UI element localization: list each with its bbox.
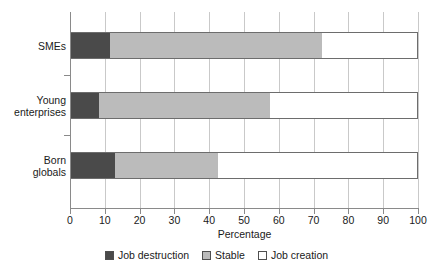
bar-segment	[115, 152, 218, 179]
legend-item[interactable]: Job creation	[258, 249, 328, 261]
stacked-bar-chart: SMEsYoungenterprisesBornglobals 01020304…	[0, 0, 433, 269]
x-axis-label-60: 60	[264, 214, 294, 227]
x-axis-label-100: 100	[403, 214, 433, 227]
y-axis-label-line: globals	[33, 166, 66, 178]
legend-label: Job creation	[271, 249, 328, 261]
legend-label: Job destruction	[118, 249, 189, 261]
y-axis-line	[70, 12, 71, 208]
bar-row	[70, 92, 418, 119]
y-axis-label-born-globals: Bornglobals	[33, 154, 66, 178]
bar-row	[70, 32, 418, 59]
bar-segment	[70, 152, 115, 179]
legend-swatch-icon	[258, 251, 267, 260]
gridline-100	[418, 12, 419, 208]
x-axis-label-10: 10	[90, 214, 120, 227]
legend-item[interactable]: Job destruction	[105, 249, 189, 261]
plot-area	[70, 12, 418, 208]
x-axis-title: Percentage	[70, 228, 419, 240]
y-axis-label-line: Young	[14, 94, 66, 106]
x-axis-label-0: 0	[55, 214, 85, 227]
legend-label: Stable	[215, 249, 245, 261]
bar-segment	[110, 32, 322, 59]
y-axis-label-smes: SMEs	[38, 40, 66, 52]
bar-segment	[70, 92, 99, 119]
y-axis-tick-1	[64, 135, 71, 136]
x-axis-label-40: 40	[194, 214, 224, 227]
x-axis-label-90: 90	[368, 214, 398, 227]
y-axis-label-young-enterprises: Youngenterprises	[14, 94, 66, 118]
x-axis-label-70: 70	[299, 214, 329, 227]
bar-row	[70, 152, 418, 179]
bar-segment	[218, 152, 418, 179]
bar-segment	[99, 92, 270, 119]
bar-segment	[322, 32, 418, 59]
legend-item[interactable]: Stable	[202, 249, 245, 261]
chart-legend: Job destructionStableJob creation	[0, 249, 433, 261]
y-axis-label-line: SMEs	[38, 40, 66, 52]
x-axis-label-50: 50	[229, 214, 259, 227]
x-axis-label-20: 20	[125, 214, 155, 227]
y-axis-label-line: Born	[33, 154, 66, 166]
bar-segment	[70, 32, 110, 59]
legend-swatch-icon	[202, 251, 211, 260]
y-axis-tick-0	[64, 75, 71, 76]
x-axis-label-30: 30	[159, 214, 189, 227]
y-axis-label-line: enterprises	[14, 106, 66, 118]
x-axis-label-80: 80	[333, 214, 363, 227]
bar-segment	[270, 92, 418, 119]
legend-swatch-icon	[105, 251, 114, 260]
